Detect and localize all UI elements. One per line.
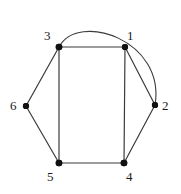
- vertex-label-1: 1: [127, 29, 134, 42]
- graph-figure: 1 2 3 4 5 6: [0, 0, 181, 194]
- vertex-label-3: 3: [44, 29, 51, 42]
- vertex-6-y: [23, 103, 29, 109]
- vertex-2-y: [152, 102, 158, 108]
- edge-4-1: [124, 47, 125, 163]
- edge-3-2-arc: [59, 31, 156, 105]
- vertex-label-2: 2: [162, 99, 169, 112]
- edge-2-4: [124, 105, 155, 163]
- vertex-label-4: 4: [126, 170, 133, 183]
- vertex-4-y: [121, 160, 128, 167]
- vertex-group: [23, 44, 158, 167]
- vertex-1-y: [122, 44, 128, 50]
- edge-group: [26, 31, 156, 163]
- vertex-3-y: [56, 44, 63, 51]
- edge-1-2: [125, 47, 155, 105]
- edge-3-6: [26, 47, 59, 106]
- edge-6-5: [26, 106, 59, 163]
- vertex-label-5: 5: [47, 170, 54, 183]
- vertex-5-y: [56, 160, 63, 167]
- graph-canvas: [0, 0, 181, 194]
- vertex-label-6: 6: [10, 99, 17, 112]
